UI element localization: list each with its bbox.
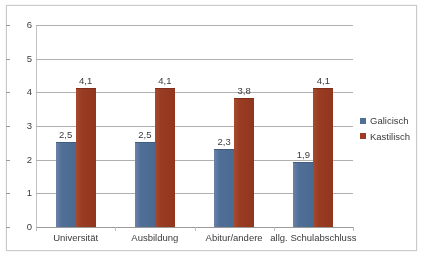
y-tick-mark <box>6 59 10 60</box>
y-tick-mark <box>6 160 10 161</box>
x-axis-category-labels: UniversitätAusbildungAbitur/andereallg. … <box>36 233 353 251</box>
y-tick-mark <box>6 25 10 26</box>
bar-galicisch-0[interactable] <box>56 142 76 227</box>
x-tick-mark <box>36 227 37 231</box>
y-tick-mark <box>6 126 10 127</box>
legend-swatch-icon <box>360 118 366 124</box>
bar-value-label: 4,1 <box>307 76 339 86</box>
x-tick-mark <box>115 227 116 231</box>
bar-kastilisch-2[interactable] <box>234 98 254 227</box>
bar-value-label: 4,1 <box>70 76 102 86</box>
y-tick-label: 6 <box>10 20 32 30</box>
y-tick-label: 0 <box>10 222 32 232</box>
legend-item-kastilisch[interactable]: Kastilisch <box>360 132 416 142</box>
gridline <box>36 25 353 26</box>
bar-galicisch-1[interactable] <box>135 142 155 227</box>
y-tick-mark <box>6 227 10 228</box>
bar-kastilisch-0[interactable] <box>76 88 96 227</box>
y-tick-label: 5 <box>10 54 32 64</box>
x-tick-mark <box>274 227 275 231</box>
y-tick-label: 4 <box>10 87 32 97</box>
gridline <box>36 59 353 60</box>
y-tick-label: 1 <box>10 188 32 198</box>
legend-label: Kastilisch <box>370 132 410 142</box>
x-category-label: allg. Schulabschluss <box>266 233 361 244</box>
bar-value-label: 3,8 <box>228 86 260 96</box>
legend-swatch-icon <box>360 133 366 139</box>
bar-chart: 0123456 2,54,12,54,12,33,81,94,1 Univers… <box>0 0 424 265</box>
chart-legend: GalicischKastilisch <box>360 116 416 147</box>
bar-galicisch-2[interactable] <box>214 149 234 227</box>
bar-kastilisch-3[interactable] <box>313 88 333 227</box>
y-tick-mark <box>6 92 10 93</box>
bar-kastilisch-1[interactable] <box>155 88 175 227</box>
x-tick-mark <box>353 227 354 231</box>
bar-galicisch-3[interactable] <box>293 162 313 227</box>
bar-value-label: 4,1 <box>149 76 181 86</box>
y-tick-label: 3 <box>10 121 32 131</box>
legend-item-galicisch[interactable]: Galicisch <box>360 116 416 126</box>
y-axis-tick-labels: 0123456 <box>8 25 32 227</box>
legend-label: Galicisch <box>370 116 409 126</box>
y-tick-mark <box>6 193 10 194</box>
y-tick-label: 2 <box>10 155 32 165</box>
x-tick-mark <box>195 227 196 231</box>
plot-area: 2,54,12,54,12,33,81,94,1 <box>36 25 353 227</box>
